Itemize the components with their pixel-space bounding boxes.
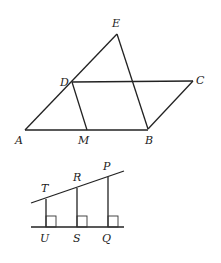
label-D: D [59, 76, 69, 89]
label-B: B [144, 134, 153, 147]
figure-perpendiculars: T R P U S Q [31, 160, 124, 245]
label-S: S [73, 232, 81, 245]
label-M: M [77, 134, 90, 147]
label-C: C [196, 74, 205, 87]
segment-DM [72, 82, 87, 130]
label-T: T [41, 182, 50, 195]
label-Q: Q [102, 232, 111, 245]
right-angle-U [46, 216, 56, 227]
label-A: A [14, 134, 23, 147]
figure-parallelogram-triangle: E D C A M B [14, 17, 205, 147]
label-R: R [72, 171, 81, 184]
right-angle-Q [108, 216, 118, 227]
label-P: P [102, 160, 111, 173]
label-E: E [111, 17, 120, 30]
geometry-diagram: E D C A M B T R P U S Q [0, 0, 221, 263]
segment-DC [72, 81, 193, 82]
label-U: U [40, 232, 50, 245]
segment-CB [148, 81, 193, 129]
right-angle-S [77, 216, 87, 227]
